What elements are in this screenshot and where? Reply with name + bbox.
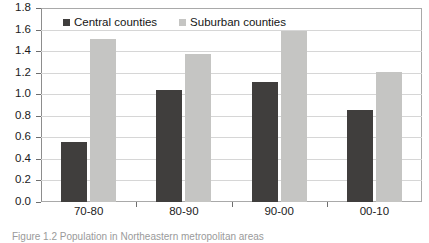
y-axis-tick-label: 1.8 [0,2,31,14]
y-axis-tick [36,51,41,52]
y-axis-tick-label: 0.6 [0,132,31,144]
y-axis-tick-label: 1.4 [0,45,31,57]
y-axis-tick [36,73,41,74]
y-axis-tick [36,30,41,31]
legend-label: Central counties [74,17,157,29]
bar-80-90-suburban [185,54,211,202]
y-axis-tick [36,116,41,117]
y-axis-tick [36,159,41,160]
y-axis-tick-label: 0.8 [0,110,31,122]
bar-70-80-suburban [90,39,116,202]
y-axis-tick [36,202,41,203]
y-axis-tick [36,94,41,95]
y-axis-tick [36,180,41,181]
y-axis-tick-label: 0.4 [0,153,31,165]
bar-chart: 0.00.20.40.60.81.01.21.41.61.8 Central c… [41,8,422,202]
bar-00-10-suburban [376,72,402,202]
bar-90-00-central [252,82,278,202]
y-axis-tick [36,137,41,138]
y-axis-tick-label: 0.0 [0,196,31,208]
figure-caption: Figure 1.2 Population in Northeastern me… [12,231,264,243]
x-axis-label-70-80: 70-80 [74,206,103,218]
y-axis-tick-label: 1.6 [0,24,31,36]
chart-legend: Central counties Suburban counties [63,17,286,29]
x-axis-label-00-10: 00-10 [360,206,389,218]
y-axis-tick-label: 0.2 [0,175,31,187]
x-axis-label-80-90: 80-90 [169,206,198,218]
bar-90-00-suburban [281,31,307,202]
legend-swatch-icon [63,19,70,26]
legend-item-central: Central counties [63,17,157,29]
y-axis-tick-label: 1.0 [0,88,31,100]
bar-70-80-central [61,142,87,202]
bar-00-10-central [347,110,373,202]
y-axis-tick [36,8,41,9]
legend-item-suburban: Suburban counties [179,17,286,29]
bar-80-90-central [156,90,182,202]
legend-label: Suburban counties [190,17,286,29]
gridline [41,30,422,31]
x-axis-tick [327,202,328,207]
x-axis-tick [136,202,137,207]
x-axis-label-90-00: 90-00 [264,206,293,218]
x-axis-tick [232,202,233,207]
legend-swatch-icon [179,19,186,26]
y-axis-tick-label: 1.2 [0,67,31,79]
